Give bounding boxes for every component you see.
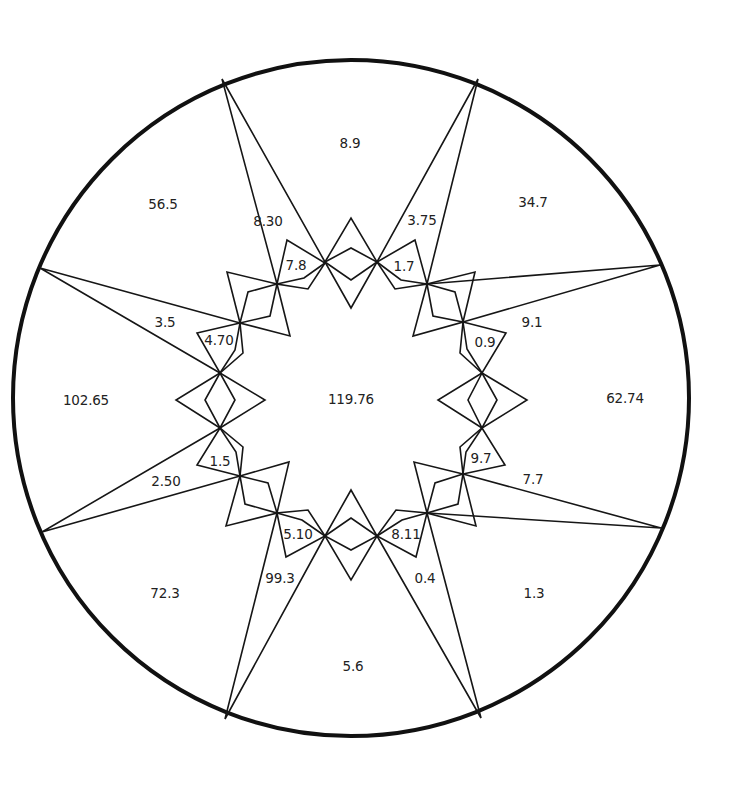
spike-label-bottom-left: 99.3 <box>265 570 294 586</box>
region-label-bottom-right: 1.3 <box>524 585 545 601</box>
kite-label-9-7: 9.7 <box>471 450 492 466</box>
spike-label-top-left: 8.30 <box>253 213 282 229</box>
spike-label-bottom-right: 0.4 <box>415 570 436 586</box>
region-label-top-right: 34.7 <box>518 194 547 210</box>
kite-label-8-11: 8.11 <box>391 526 420 542</box>
kite-label-4-70: 4.70 <box>204 332 233 348</box>
kite-label-7-8: 7.8 <box>286 257 307 273</box>
region-label-bottom-left: 72.3 <box>150 585 179 601</box>
region-label-bottom: 5.6 <box>343 658 364 674</box>
kite-label-1-7: 1.7 <box>394 258 415 274</box>
spike-label-right-bottom: 7.7 <box>523 471 544 487</box>
region-label-left: 102.65 <box>63 392 109 408</box>
kite-label-5-10: 5.10 <box>283 526 312 542</box>
spike-label-right-top: 9.1 <box>522 314 543 330</box>
center-label: 119.76 <box>328 391 374 407</box>
spike-label-top-right: 3.75 <box>407 212 436 228</box>
region-label-top-left: 56.5 <box>148 196 177 212</box>
spike-label-left-top: 3.5 <box>155 314 176 330</box>
region-label-right: 62.74 <box>606 390 644 406</box>
region-label-top: 8.9 <box>340 135 361 151</box>
spike-label-left-bottom: 2.50 <box>151 473 180 489</box>
kite-label-1-5: 1.5 <box>210 453 231 469</box>
kite-label-0-9: 0.9 <box>475 334 496 350</box>
